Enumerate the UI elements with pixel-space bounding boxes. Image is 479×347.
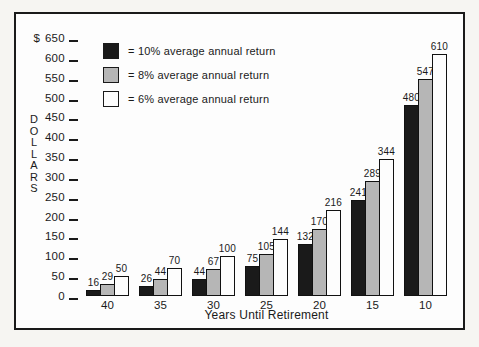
- y-tick-value: 650: [45, 32, 65, 44]
- currency-symbol: $: [34, 32, 40, 44]
- y-tick-mark: [69, 219, 78, 221]
- y-axis: $650600550500450400350300250200150100500: [16, 14, 78, 328]
- y-tick-500: 500: [45, 92, 78, 104]
- y-tick-200: 200: [45, 211, 78, 223]
- y-tick-value: 200: [45, 211, 65, 223]
- bar-35yr-3: [167, 268, 182, 296]
- y-tick-mark: [69, 298, 78, 300]
- plot-area: 1629504026447035446710030751051442513217…: [86, 14, 447, 296]
- y-tick-550: 550: [45, 72, 78, 84]
- y-tick-value: 600: [45, 52, 65, 64]
- bar-20yr-3: [326, 210, 341, 296]
- bar-40yr-3: [114, 276, 129, 296]
- bar-10yr-3: [432, 54, 447, 296]
- bar-40yr-1: [86, 290, 101, 296]
- y-tick-value: 550: [45, 72, 65, 84]
- bar-30yr-3: [220, 256, 235, 296]
- y-tick-value: 500: [45, 92, 65, 104]
- y-tick-value: 300: [45, 171, 65, 183]
- y-axis-letter: A: [27, 160, 41, 172]
- bar-10yr-2: [418, 79, 433, 296]
- x-axis-label: Years Until Retirement: [86, 308, 447, 322]
- y-tick-mark: [69, 139, 78, 141]
- bar-20yr-1: [298, 244, 313, 296]
- y-axis-letter: D: [27, 114, 41, 126]
- y-tick-300: 300: [45, 171, 78, 183]
- y-tick-value: 50: [52, 270, 65, 282]
- y-tick-mark: [69, 199, 78, 201]
- y-tick-100: 100: [45, 250, 78, 262]
- y-tick-50: 50: [52, 270, 78, 282]
- bar-value-label: 67: [208, 256, 220, 267]
- bar-20yr-2: [312, 229, 327, 296]
- y-tick-350: 350: [45, 151, 78, 163]
- y-tick-0: 0: [58, 290, 78, 302]
- bar-25yr-3: [273, 239, 288, 296]
- bar-value-label: 610: [431, 41, 448, 52]
- y-tick-600: 600: [45, 52, 78, 64]
- y-tick-mark: [69, 179, 78, 181]
- chart-frame: $650600550500450400350300250200150100500…: [14, 12, 465, 330]
- y-tick-mark: [69, 40, 78, 42]
- bar-25yr-1: [245, 266, 260, 296]
- chart-figure: $650600550500450400350300250200150100500…: [0, 0, 479, 347]
- y-tick-value: 150: [45, 230, 65, 242]
- y-tick-mark: [69, 60, 78, 62]
- y-tick-value: 400: [45, 131, 65, 143]
- bar-15yr-2: [365, 181, 380, 296]
- y-tick-value: 450: [45, 111, 65, 123]
- bar-value-label: 75: [247, 253, 259, 264]
- y-axis-letter: L: [27, 137, 41, 149]
- bar-15yr-1: [351, 200, 366, 296]
- y-tick-150: 150: [45, 230, 78, 242]
- bar-value-label: 26: [141, 273, 153, 284]
- bar-30yr-2: [206, 269, 221, 296]
- y-tick-mark: [69, 119, 78, 121]
- bar-value-label: 44: [155, 266, 167, 277]
- y-tick-mark: [69, 80, 78, 82]
- bar-40yr-2: [100, 284, 115, 296]
- bar-value-label: 216: [325, 197, 342, 208]
- y-tick-mark: [69, 238, 78, 240]
- bar-value-label: 16: [88, 277, 100, 288]
- bar-25yr-2: [259, 254, 274, 296]
- y-tick-mark: [69, 100, 78, 102]
- bar-15yr-3: [379, 159, 394, 296]
- y-tick-mark: [69, 258, 78, 260]
- y-tick-value: 250: [45, 191, 65, 203]
- y-tick-650: $650: [34, 32, 79, 44]
- bar-35yr-1: [139, 286, 154, 296]
- bar-35yr-2: [153, 279, 168, 296]
- y-axis-label-dollars: DOLLARS: [27, 114, 41, 195]
- y-tick-value: 350: [45, 151, 65, 163]
- y-tick-450: 450: [45, 111, 78, 123]
- y-axis-letter: S: [27, 183, 41, 195]
- bar-value-label: 50: [116, 263, 128, 274]
- y-tick-value: 0: [58, 290, 65, 302]
- bar-30yr-1: [192, 279, 207, 296]
- y-tick-mark: [69, 159, 78, 161]
- y-tick-400: 400: [45, 131, 78, 143]
- bar-value-label: 144: [272, 226, 289, 237]
- bar-10yr-1: [404, 105, 419, 296]
- y-tick-250: 250: [45, 191, 78, 203]
- bar-value-label: 70: [169, 255, 181, 266]
- y-tick-value: 100: [45, 250, 65, 262]
- bar-value-label: 344: [378, 146, 395, 157]
- bar-value-label: 29: [102, 271, 114, 282]
- bar-value-label: 44: [194, 266, 206, 277]
- bar-value-label: 100: [219, 243, 236, 254]
- y-tick-mark: [69, 278, 78, 280]
